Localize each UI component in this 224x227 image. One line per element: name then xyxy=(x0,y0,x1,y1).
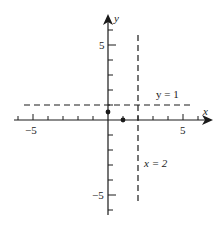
x-tick-label-pos5: 5 xyxy=(180,124,186,136)
y-tick-label-pos5: 5 xyxy=(99,39,105,51)
x-axis-label: x xyxy=(202,105,208,117)
vertical-asymptote-label: x = 2 xyxy=(143,157,168,169)
y-axis-label: y xyxy=(113,12,119,24)
horizontal-asymptote-label: y = 1 xyxy=(156,88,179,100)
point-x-intercept xyxy=(121,118,126,123)
graph: y x −5 5 5 −5 y = 1 x = 2 xyxy=(0,0,224,227)
y-tick-label-neg5: −5 xyxy=(92,189,104,201)
x-tick-label-neg5: −5 xyxy=(25,124,37,136)
point-y-intercept xyxy=(106,110,111,115)
